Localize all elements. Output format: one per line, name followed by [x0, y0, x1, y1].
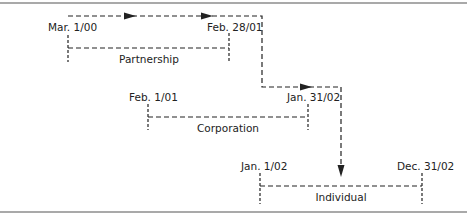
arrow-right-icon: [124, 13, 136, 20]
partnership-end-date: Feb. 28/01: [207, 21, 263, 33]
partnership-label: Partnership: [119, 53, 179, 65]
arrow-down-icon: [338, 165, 345, 177]
individual-start-date: Jan. 1/02: [241, 160, 287, 172]
corporation-start-date: Feb. 1/01: [129, 91, 178, 103]
corporation-label: Corporation: [197, 122, 259, 134]
individual-label: Individual: [315, 191, 366, 203]
corporation-end-date: Jan. 31/02: [287, 91, 340, 103]
partnership-start-date: Mar. 1/00: [48, 21, 97, 33]
arrow-right-icon: [300, 84, 312, 91]
arrow-right-icon: [201, 13, 213, 20]
individual-end-date: Dec. 31/02: [397, 160, 454, 172]
